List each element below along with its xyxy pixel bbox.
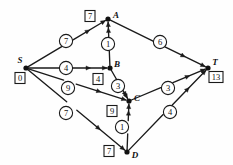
edge-weight-value: 1 bbox=[120, 122, 124, 132]
node-s[interactable] bbox=[23, 65, 28, 70]
edge-weight-c-t: 3 bbox=[161, 81, 174, 94]
node-a[interactable] bbox=[105, 16, 110, 21]
graph-canvas: 7497163314 S0A7B4C9D7T13 bbox=[0, 0, 233, 165]
graph-figure: 7497163314 S0A7B4C9D7T13 bbox=[0, 0, 233, 165]
edge-weight-s-b: 4 bbox=[59, 61, 72, 74]
edge-weight-value: 1 bbox=[106, 39, 110, 49]
edge-weight-a-t: 6 bbox=[153, 35, 166, 48]
node-b[interactable] bbox=[107, 65, 112, 70]
node-distance-value-s: 0 bbox=[18, 73, 22, 83]
node-label-group-s: S0 bbox=[15, 55, 25, 84]
node-d[interactable] bbox=[124, 149, 129, 154]
edge-weight-value: 3 bbox=[116, 81, 120, 91]
node-t[interactable] bbox=[205, 65, 210, 70]
node-name-b: B bbox=[113, 59, 120, 69]
node-distance-value-t: 13 bbox=[212, 72, 221, 82]
edge-weight-s-d: 7 bbox=[59, 106, 72, 119]
node-distance-value-d: 7 bbox=[107, 146, 111, 156]
node-label-group-a: A7 bbox=[85, 10, 119, 22]
edge-weight-d-c: 1 bbox=[115, 120, 128, 133]
node-name-a: A bbox=[112, 10, 119, 20]
node-distance-value-c: 9 bbox=[110, 106, 114, 116]
edge-weight-b-c: 3 bbox=[111, 79, 124, 92]
node-name-t: T bbox=[212, 57, 218, 67]
edge-weight-d-t: 4 bbox=[163, 105, 176, 118]
edge-weight-value: 6 bbox=[158, 37, 162, 47]
edge-weight-value: 9 bbox=[66, 83, 70, 93]
edge-weight-value: 7 bbox=[64, 36, 68, 46]
edge-weight-value: 3 bbox=[166, 83, 170, 93]
node-name-d: D bbox=[131, 150, 139, 160]
edge-weight-b-a: 1 bbox=[101, 37, 114, 50]
node-c[interactable] bbox=[126, 98, 131, 103]
node-distance-value-a: 7 bbox=[88, 11, 92, 21]
node-label-group-c: C9 bbox=[107, 93, 141, 117]
node-name-c: C bbox=[134, 93, 141, 103]
node-label-group-t: T13 bbox=[209, 57, 223, 83]
node-name-s: S bbox=[17, 55, 22, 65]
edge-weight-value: 7 bbox=[64, 108, 68, 118]
edge-weight-s-a: 7 bbox=[59, 34, 72, 47]
edge-weight-s-c: 9 bbox=[61, 81, 74, 94]
